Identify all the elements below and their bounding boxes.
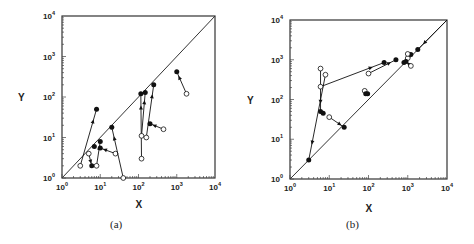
- tick-exponent: 0: [280, 173, 283, 179]
- tick-exponent: 3: [180, 181, 183, 187]
- x-tick-label: 103: [171, 181, 183, 192]
- tick-exponent: 0: [65, 181, 68, 187]
- filled-circle-end-marker: [174, 69, 179, 74]
- filled-circle-end-marker: [138, 91, 143, 96]
- filled-circle-end-marker: [342, 125, 347, 130]
- filled-circle-end-marker: [89, 163, 94, 168]
- x-tick-label: 104: [209, 181, 222, 192]
- x-axis-title: X: [366, 203, 373, 214]
- tick-exponent: 1: [103, 181, 106, 187]
- y-tick-label: 100: [271, 173, 283, 184]
- y-axis-title: Y: [18, 92, 25, 103]
- y-tick-label: 101: [271, 133, 283, 144]
- caption-b: (b): [346, 218, 359, 230]
- tick-exponent: 3: [411, 182, 414, 188]
- open-circle-start-marker: [323, 72, 328, 77]
- tick-exponent: 2: [52, 91, 55, 97]
- tick-exponent: 0: [52, 172, 55, 178]
- x-axis-title: X: [136, 199, 143, 210]
- x-tick-label: 104: [441, 182, 454, 193]
- y-tick-label: 101: [43, 132, 55, 143]
- trajectory-line: [142, 92, 146, 135]
- filled-circle-end-marker: [306, 158, 311, 163]
- tick-exponent: 2: [371, 182, 374, 188]
- diagonal-reference-line: [62, 16, 215, 178]
- trajectory-line: [418, 20, 447, 50]
- filled-circle-end-marker: [151, 82, 156, 87]
- open-circle-start-marker: [161, 127, 166, 132]
- x-tick-label: 101: [323, 182, 335, 193]
- tick-exponent: 4: [52, 10, 56, 16]
- open-circle-start-marker: [94, 163, 99, 168]
- open-circle-marker: [405, 52, 410, 57]
- y-tick-label: 103: [271, 54, 283, 65]
- y-tick-label: 104: [271, 14, 284, 25]
- filled-circle-end-marker: [415, 47, 420, 52]
- x-tick-label: 103: [402, 182, 414, 193]
- y-tick-label: 103: [43, 51, 55, 62]
- x-tick-label: 101: [94, 181, 106, 192]
- arrowhead-icon: [150, 94, 154, 98]
- arrowhead-icon: [337, 122, 341, 126]
- tick-exponent: 3: [280, 54, 283, 60]
- open-circle-start-marker: [78, 163, 83, 168]
- panel-b: 100100101101102102103103104104XY (b): [237, 0, 474, 244]
- x-tick-label: 100: [284, 182, 296, 193]
- panel-a: 100100101101102102103103104104XY (a): [0, 0, 237, 244]
- filled-circle-end-marker: [148, 121, 153, 126]
- filled-circle-end-marker: [143, 90, 148, 95]
- tick-exponent: 2: [141, 181, 144, 187]
- tick-exponent: 2: [280, 94, 283, 100]
- y-tick-label: 102: [43, 91, 55, 102]
- open-circle-start-marker: [86, 151, 91, 156]
- trajectory-line: [141, 94, 142, 159]
- arrowhead-icon: [113, 136, 117, 140]
- filled-circle-end-marker: [98, 146, 103, 151]
- tick-exponent: 1: [52, 132, 55, 138]
- open-circle-start-marker: [184, 91, 189, 96]
- trajectory-line: [80, 109, 96, 166]
- arrowhead-icon: [311, 140, 315, 144]
- tick-exponent: 4: [218, 181, 222, 187]
- open-circle-start-marker: [327, 115, 332, 120]
- trajectory-line: [321, 63, 385, 87]
- open-circle-start-marker: [366, 71, 371, 76]
- tick-exponent: 1: [280, 133, 283, 139]
- tick-exponent: 4: [280, 14, 284, 20]
- open-circle-start-marker: [121, 176, 126, 181]
- tick-exponent: 1: [332, 182, 335, 188]
- filled-circle-end-marker: [393, 57, 398, 62]
- open-circle-start-marker: [318, 84, 323, 89]
- x-tick-label: 102: [133, 181, 145, 192]
- open-circle-start-marker: [144, 135, 149, 140]
- open-circle-start-marker: [139, 133, 144, 138]
- plot-a: 100100101101102102103103104104XY: [0, 0, 237, 244]
- open-circle-start-marker: [318, 66, 323, 71]
- filled-circle-marker: [363, 91, 368, 96]
- y-tick-label: 104: [43, 10, 56, 21]
- arrowhead-icon: [142, 100, 146, 104]
- x-tick-label: 102: [363, 182, 375, 193]
- filled-circle-end-marker: [109, 125, 114, 130]
- open-circle-start-marker: [408, 64, 413, 69]
- filled-circle-marker: [321, 111, 326, 116]
- tick-exponent: 3: [52, 51, 55, 57]
- trajectory-line: [97, 141, 101, 165]
- tick-exponent: 4: [450, 182, 454, 188]
- arrowhead-icon: [88, 159, 92, 163]
- caption-a: (a): [110, 218, 122, 230]
- y-tick-label: 102: [271, 94, 283, 105]
- x-tick-label: 100: [56, 181, 68, 192]
- filled-circle-end-marker: [94, 107, 99, 112]
- filled-circle-end-marker: [403, 59, 408, 64]
- filled-circle-end-marker: [98, 139, 103, 144]
- plot-b: 100100101101102102103103104104XY: [237, 0, 474, 244]
- open-circle-start-marker: [139, 156, 144, 161]
- y-tick-label: 100: [43, 172, 55, 183]
- filled-circle-marker: [92, 144, 97, 149]
- trajectory-line: [177, 72, 187, 94]
- tick-exponent: 0: [293, 182, 296, 188]
- y-axis-title: Y: [247, 95, 254, 106]
- arrowhead-icon: [139, 105, 143, 109]
